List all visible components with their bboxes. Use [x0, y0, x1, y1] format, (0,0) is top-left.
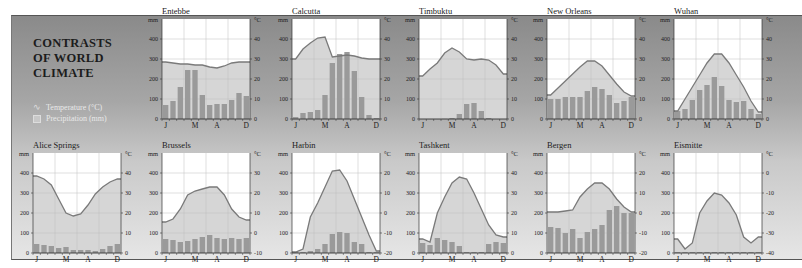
precipitation-bar — [359, 244, 364, 253]
climate-chart: Alice Springs0100200300400mm010203040°CJ… — [11, 134, 136, 268]
precipitation-bar — [185, 70, 190, 119]
svg-text:400: 400 — [406, 36, 415, 42]
svg-text:-10: -10 — [254, 250, 262, 256]
svg-text:300: 300 — [149, 56, 158, 62]
svg-text:20: 20 — [639, 170, 645, 176]
precipitation-bar — [236, 93, 241, 119]
svg-text:0: 0 — [412, 250, 415, 256]
precipitation-bar — [344, 52, 349, 119]
svg-text:J: J — [676, 255, 679, 264]
legend-item-precipitation: Precipitation (mm) — [33, 113, 107, 124]
svg-text:A: A — [344, 255, 350, 264]
climate-chart: Wuhan0100200300400mm010203040°CJMAD — [652, 0, 777, 134]
precipitation-bar — [308, 112, 313, 119]
svg-text:300: 300 — [661, 190, 670, 196]
chart-title: Alice Springs — [33, 140, 80, 150]
svg-text:100: 100 — [406, 230, 415, 236]
svg-text:°C: °C — [254, 16, 261, 23]
precipitation-bar — [577, 238, 582, 253]
precipitation-bar — [56, 248, 61, 253]
precipitation-bar — [163, 105, 168, 119]
precipitation-bar — [748, 109, 753, 119]
precipitation-bar — [682, 109, 687, 119]
svg-text:300: 300 — [279, 56, 288, 62]
svg-text:D: D — [629, 121, 635, 130]
precipitation-bar — [200, 95, 205, 119]
precipitation-bar — [100, 249, 105, 253]
svg-text:A: A — [599, 121, 605, 130]
svg-text:100: 100 — [20, 230, 29, 236]
svg-text:°C: °C — [384, 16, 391, 23]
precipitation-bar — [555, 99, 560, 119]
chart-title: Entebbe — [162, 6, 190, 16]
svg-text:400: 400 — [149, 170, 158, 176]
svg-text:0: 0 — [26, 250, 29, 256]
svg-text:M: M — [577, 255, 584, 264]
title-line: CLIMATE — [33, 66, 112, 81]
svg-text:300: 300 — [534, 190, 543, 196]
precipitation-bar — [330, 63, 335, 119]
precipitation-bar — [592, 229, 597, 253]
chart-title: Calcutta — [292, 6, 321, 16]
svg-text:400: 400 — [279, 170, 288, 176]
precipitation-bar — [352, 71, 357, 119]
svg-text:-30: -30 — [766, 230, 774, 236]
precipitation-bar — [420, 243, 425, 253]
svg-text:0: 0 — [384, 116, 387, 122]
svg-text:40: 40 — [254, 36, 260, 42]
svg-text:0: 0 — [511, 250, 514, 256]
svg-text:-10: -10 — [766, 190, 774, 196]
svg-text:20: 20 — [766, 76, 772, 82]
svg-text:0: 0 — [639, 116, 642, 122]
precipitation-bar — [501, 243, 506, 253]
precipitation-bar — [49, 246, 54, 253]
svg-text:A: A — [471, 255, 477, 264]
svg-text:20: 20 — [125, 210, 131, 216]
precipitation-bar — [599, 225, 604, 253]
svg-text:100: 100 — [661, 96, 670, 102]
climate-chart: Eismitte0100200300400mm-40-30-20-100°CJM… — [652, 134, 777, 268]
svg-text:A: A — [599, 255, 605, 264]
svg-text:10: 10 — [254, 96, 260, 102]
precipitation-bar — [493, 242, 498, 253]
svg-text:mm: mm — [660, 150, 670, 157]
legend: ∿ Temperature (°C) Precipitation (mm) — [33, 102, 107, 124]
svg-text:J: J — [549, 255, 552, 264]
svg-text:mm: mm — [148, 16, 158, 23]
svg-text:A: A — [726, 255, 732, 264]
svg-text:J: J — [164, 255, 167, 264]
svg-text:20: 20 — [639, 76, 645, 82]
precipitation-bar — [300, 113, 305, 119]
svg-text:20: 20 — [511, 76, 517, 82]
svg-text:100: 100 — [406, 96, 415, 102]
svg-text:10: 10 — [511, 230, 517, 236]
climate-chart: New Orleans0100200300400mm010203040°CJMA… — [525, 0, 650, 134]
precipitation-bar — [464, 104, 469, 119]
svg-text:-40: -40 — [766, 250, 774, 256]
svg-text:0: 0 — [639, 210, 642, 216]
chart-title: Bergen — [547, 140, 572, 150]
svg-text:-20: -20 — [639, 250, 647, 256]
precipitation-bar — [570, 229, 575, 253]
precipitation-bar — [555, 228, 560, 253]
svg-text:D: D — [115, 255, 121, 264]
svg-text:mm: mm — [533, 16, 543, 23]
svg-text:200: 200 — [149, 76, 158, 82]
precipitation-bar — [229, 238, 234, 253]
precipitation-bar — [486, 244, 491, 253]
precipitation-bar — [207, 235, 212, 253]
precipitation-bar — [322, 95, 327, 119]
svg-text:M: M — [322, 255, 329, 264]
svg-text:200: 200 — [661, 76, 670, 82]
svg-text:400: 400 — [20, 170, 29, 176]
svg-text:°C: °C — [511, 150, 518, 157]
svg-text:mm: mm — [533, 150, 543, 157]
svg-text:30: 30 — [254, 170, 260, 176]
svg-text:200: 200 — [279, 76, 288, 82]
svg-text:J: J — [294, 121, 297, 130]
precipitation-bar — [563, 233, 568, 253]
precipitation-bar — [471, 103, 476, 119]
precipitation-bar — [585, 232, 590, 253]
svg-text:10: 10 — [639, 190, 645, 196]
svg-text:J: J — [294, 255, 297, 264]
